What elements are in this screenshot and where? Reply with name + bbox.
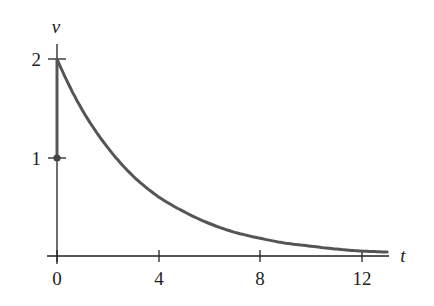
y-axis-label: v <box>52 16 61 37</box>
decay-curve <box>57 59 387 252</box>
ytick-label-2: 2 <box>32 49 42 70</box>
x-axis-label: t <box>400 245 406 266</box>
xtick-label-8: 8 <box>255 268 265 289</box>
xtick-label-12: 12 <box>353 268 372 289</box>
xtick-label-0: 0 <box>52 268 62 289</box>
decay-chart: 0 4 8 12 1 2 v t <box>0 0 434 306</box>
initial-point-dot <box>53 154 60 161</box>
xtick-label-4: 4 <box>154 268 164 289</box>
ytick-label-1: 1 <box>32 148 42 169</box>
